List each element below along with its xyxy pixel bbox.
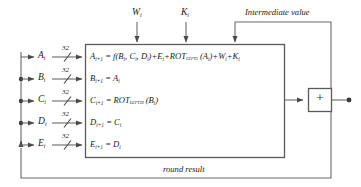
input-label-d: Di (38, 117, 47, 127)
equation-d: Di+1 = Ci (90, 118, 121, 127)
input-label-e: Ei (38, 139, 45, 149)
equation-e-rhs: = Di (105, 139, 121, 149)
equation-c-rhs: = ROTLEFT30 (Bi) (106, 95, 159, 105)
input-label-w: Wi (132, 8, 142, 18)
input-label-c: Ci (38, 95, 46, 105)
bus-width-label-b: 32 (62, 67, 69, 74)
equation-e-lhs: Ei+1 (90, 139, 103, 149)
adder-plus-symbol: + (308, 90, 332, 106)
input-label-b: Bi (38, 73, 45, 83)
bus-width-label-e: 32 (62, 133, 69, 140)
bus-width-label-c: 32 (62, 89, 69, 96)
equation-d-rhs: = Ci (106, 117, 121, 127)
input-label-a: Ai (38, 51, 45, 61)
bus-width-label-a: 32 (62, 45, 69, 52)
intermediate-value-caption: Intermediate value (245, 7, 310, 17)
equation-c: Ci+1 = ROTLEFT30 (Bi) (90, 96, 158, 105)
equation-e: Ei+1 = Di (90, 140, 121, 149)
adder-output-junction-dot (347, 98, 352, 103)
sha-round-function-diagram: Wi Ki Ai Bi Ci Di Ei 32 32 32 32 32 Ai+1… (0, 0, 361, 187)
diagram-wiring (0, 0, 361, 187)
equation-a: Ai+1 = f(Bi, Ci, Di)+Ei+ROTLEFT5 (Ai)+Wi… (90, 52, 240, 61)
equation-c-lhs: Ci+1 (90, 95, 103, 105)
equation-a-rhs: = f(Bi, Ci, Di)+Ei+ROTLEFT5 (Ai)+Wi+Ki (105, 51, 240, 61)
equation-b: Bi+1 = Ai (90, 74, 120, 83)
input-label-k: Ki (181, 8, 189, 18)
equation-b-rhs: = Ai (105, 73, 120, 83)
equation-d-lhs: Di+1 (90, 117, 104, 127)
bus-width-label-d: 32 (62, 111, 69, 118)
round-result-caption: round result (163, 164, 205, 174)
equation-a-lhs: Ai+1 (90, 51, 103, 61)
equation-b-lhs: Bi+1 (90, 73, 103, 83)
